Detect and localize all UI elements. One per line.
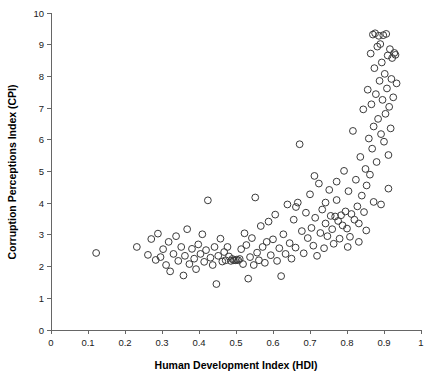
- data-point: [263, 238, 270, 245]
- data-point: [307, 191, 314, 198]
- data-point: [160, 246, 167, 253]
- data-point: [315, 180, 322, 187]
- data-point: [370, 123, 377, 130]
- data-point: [387, 125, 394, 132]
- data-point: [381, 70, 388, 77]
- data-point: [312, 214, 319, 221]
- data-point: [267, 252, 274, 259]
- data-point: [284, 201, 291, 208]
- data-point: [290, 216, 297, 223]
- data-point: [296, 141, 303, 148]
- data-point: [163, 262, 170, 269]
- axes: [51, 13, 421, 330]
- data-point: [355, 238, 362, 245]
- data-point: [371, 65, 378, 72]
- data-point: [213, 281, 220, 288]
- x-tick-label: 0.6: [266, 337, 279, 348]
- data-point: [300, 250, 307, 257]
- y-axis-title: Corruption Perceptions Index (CPI): [6, 84, 18, 259]
- data-point: [378, 59, 385, 66]
- y-tick-label: 6: [39, 134, 44, 145]
- scatter-chart: 00.10.20.30.40.50.60.70.80.91 0123456789…: [0, 0, 435, 375]
- data-point: [204, 197, 211, 204]
- data-point: [257, 223, 264, 230]
- data-point: [133, 244, 140, 251]
- x-tick-label: 1: [418, 337, 423, 348]
- y-tick-label: 0: [39, 325, 44, 336]
- data-point: [178, 244, 185, 251]
- data-point: [203, 247, 210, 254]
- data-point: [364, 86, 371, 93]
- data-point: [247, 254, 254, 261]
- data-point: [303, 209, 310, 216]
- y-tick-label: 1: [39, 293, 44, 304]
- data-point: [317, 230, 324, 237]
- data-point: [274, 257, 281, 264]
- data-point: [155, 230, 162, 237]
- plot-canvas: 00.10.20.30.40.50.60.70.80.91 0123456789…: [0, 0, 435, 375]
- data-point: [386, 103, 393, 110]
- data-point: [326, 186, 333, 193]
- data-point: [352, 176, 359, 183]
- data-point: [252, 194, 259, 201]
- data-point: [375, 115, 382, 122]
- x-tick-label: 0.3: [155, 337, 168, 348]
- data-point: [329, 226, 336, 233]
- data-point: [272, 211, 279, 218]
- data-point: [333, 197, 340, 204]
- data-point: [293, 204, 300, 211]
- data-point: [298, 228, 305, 235]
- data-point: [350, 128, 357, 135]
- data-point: [367, 50, 374, 57]
- x-tick-label: 0.4: [192, 337, 205, 348]
- x-tick-labels: 00.10.20.30.40.50.60.70.80.91: [48, 337, 423, 348]
- y-tick-label: 9: [39, 39, 44, 50]
- data-point: [373, 159, 380, 166]
- data-point: [170, 251, 177, 258]
- data-point: [148, 236, 155, 243]
- data-point: [280, 231, 287, 238]
- data-point: [276, 245, 283, 252]
- x-tick-label: 0.2: [118, 337, 131, 348]
- data-point: [345, 188, 352, 195]
- data-point: [175, 257, 182, 264]
- data-points: [93, 30, 400, 288]
- tick-marks: [47, 13, 421, 334]
- y-tick-label: 7: [39, 103, 44, 114]
- data-point: [370, 199, 377, 206]
- data-point: [292, 244, 299, 251]
- data-point: [378, 201, 385, 208]
- data-point: [195, 241, 202, 248]
- data-point: [357, 154, 364, 161]
- data-point: [282, 251, 289, 258]
- y-tick-label: 3: [39, 229, 44, 240]
- data-point: [358, 192, 365, 199]
- data-point: [182, 252, 189, 259]
- data-point: [384, 85, 391, 92]
- data-point: [363, 227, 370, 234]
- data-point: [249, 235, 256, 242]
- data-point: [369, 145, 376, 152]
- data-point: [354, 203, 361, 210]
- data-point: [341, 167, 348, 174]
- x-tick-label: 0.5: [229, 337, 242, 348]
- y-tick-label: 10: [33, 8, 44, 19]
- data-point: [310, 242, 317, 249]
- data-point: [209, 262, 216, 269]
- data-point: [368, 101, 375, 108]
- data-point: [308, 225, 315, 232]
- data-point: [224, 244, 231, 251]
- data-point: [376, 77, 383, 84]
- y-tick-label: 8: [39, 71, 44, 82]
- data-point: [265, 218, 272, 225]
- x-tick-label: 0.9: [377, 337, 390, 348]
- data-point: [207, 254, 214, 261]
- data-point: [363, 182, 370, 189]
- data-point: [387, 46, 394, 53]
- data-point: [189, 245, 196, 252]
- data-point: [217, 235, 224, 242]
- y-tick-label: 5: [39, 166, 44, 177]
- data-point: [193, 266, 200, 273]
- data-point: [360, 106, 367, 113]
- data-point: [379, 96, 386, 103]
